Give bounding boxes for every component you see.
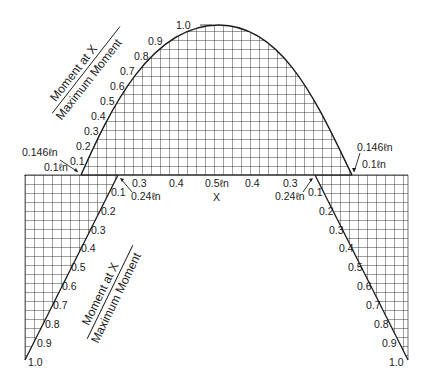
svg-text:0.5: 0.5: [348, 261, 363, 273]
svg-text:0.7: 0.7: [366, 299, 381, 311]
svg-text:0.7: 0.7: [120, 65, 135, 77]
svg-text:0.1: 0.1: [308, 186, 323, 198]
svg-text:0.2: 0.2: [101, 205, 116, 217]
svg-text:0.2: 0.2: [76, 140, 91, 152]
svg-text:0.8: 0.8: [134, 50, 149, 62]
svg-text:0.9: 0.9: [37, 337, 52, 349]
svg-text:0.146ℓn: 0.146ℓn: [357, 141, 393, 153]
svg-text:0.146ℓn: 0.146ℓn: [22, 146, 58, 158]
svg-text:0.3: 0.3: [283, 177, 298, 189]
svg-text:0.8: 0.8: [45, 318, 60, 330]
moment-envelope-diagram: 1.0 0.9 0.8 0.7 0.6 0.5 0.4 0.3 0.2 0.1 …: [0, 0, 427, 386]
svg-text:1.0: 1.0: [176, 19, 191, 31]
svg-text:0.24ℓn: 0.24ℓn: [131, 190, 161, 202]
svg-text:0.4: 0.4: [339, 242, 354, 254]
svg-text:0.2: 0.2: [319, 205, 334, 217]
svg-text:0.3: 0.3: [84, 125, 99, 137]
right-inflection-annotation: 0.146ℓn 0.1ℓn: [352, 141, 393, 172]
x-axis-label: X: [213, 191, 220, 203]
svg-text:0.6: 0.6: [357, 280, 372, 292]
svg-text:0.9: 0.9: [148, 35, 163, 47]
svg-text:0.5ℓn: 0.5ℓn: [205, 177, 229, 189]
svg-text:0.5: 0.5: [71, 261, 86, 273]
svg-text:1.0: 1.0: [28, 356, 43, 368]
svg-text:0.5: 0.5: [100, 95, 115, 107]
svg-text:0.9: 0.9: [382, 337, 397, 349]
svg-text:0.24ℓn: 0.24ℓn: [275, 190, 305, 202]
negative-moment-ratio-label: Moment at X Maximum Moment: [74, 239, 147, 346]
svg-text:0.7: 0.7: [53, 299, 68, 311]
svg-text:0.4: 0.4: [169, 177, 184, 189]
svg-text:0.3: 0.3: [329, 224, 344, 236]
svg-text:0.8: 0.8: [374, 318, 389, 330]
svg-text:0.3: 0.3: [132, 177, 147, 189]
svg-text:0.4: 0.4: [245, 177, 260, 189]
svg-text:0.1: 0.1: [70, 155, 85, 167]
svg-text:0.4: 0.4: [81, 242, 96, 254]
svg-text:0.6: 0.6: [110, 80, 125, 92]
svg-text:0.1: 0.1: [111, 186, 126, 198]
svg-text:0.4: 0.4: [91, 110, 106, 122]
svg-text:0.3: 0.3: [91, 224, 106, 236]
svg-text:1.0: 1.0: [389, 356, 404, 368]
svg-text:0.1ℓn: 0.1ℓn: [362, 158, 386, 170]
svg-text:0.6: 0.6: [62, 280, 77, 292]
